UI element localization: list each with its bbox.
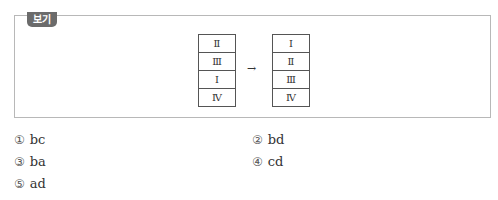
option-number: ③	[14, 155, 25, 169]
after-cell: Ⅰ	[273, 35, 310, 53]
option-1[interactable]: ①bc	[14, 132, 45, 147]
option-5[interactable]: ⑤ad	[14, 176, 46, 191]
right-arrow-icon: →	[247, 62, 256, 75]
option-text: ba	[30, 154, 46, 169]
option-3[interactable]: ③ba	[14, 154, 46, 169]
after-table: Ⅰ Ⅱ Ⅲ Ⅳ	[272, 34, 310, 107]
option-number: ②	[252, 133, 263, 147]
before-cell: Ⅰ	[199, 71, 236, 89]
option-number: ⑤	[14, 177, 25, 191]
option-number: ①	[14, 133, 25, 147]
option-text: bc	[30, 132, 46, 147]
before-table: Ⅱ Ⅲ Ⅰ Ⅳ	[198, 34, 236, 107]
option-number: ④	[252, 155, 263, 169]
before-cell: Ⅱ	[199, 35, 236, 53]
option-text: cd	[268, 154, 284, 169]
after-cell: Ⅲ	[273, 71, 310, 89]
before-cell: Ⅳ	[199, 89, 236, 107]
option-text: bd	[268, 132, 285, 147]
option-4[interactable]: ④cd	[252, 154, 283, 169]
after-cell: Ⅳ	[273, 89, 310, 107]
option-text: ad	[30, 176, 46, 191]
before-cell: Ⅲ	[199, 53, 236, 71]
option-2[interactable]: ②bd	[252, 132, 284, 147]
example-label: 보기	[27, 12, 57, 27]
after-cell: Ⅱ	[273, 53, 310, 71]
